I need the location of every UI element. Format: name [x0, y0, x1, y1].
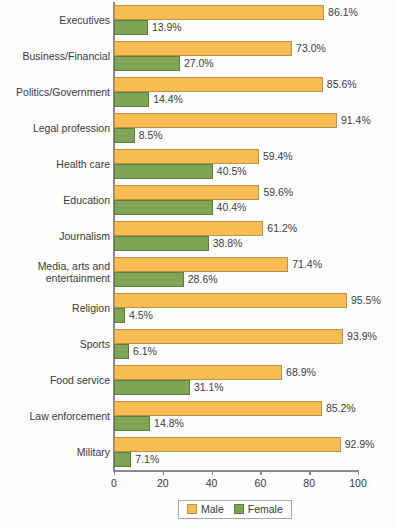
- bar-value-female: 6.1%: [129, 344, 157, 359]
- category-label: Politics/Government: [2, 86, 110, 99]
- bar-value-female: 4.5%: [125, 308, 153, 323]
- bar-row: 40.5%: [114, 164, 358, 179]
- bar-group: 93.9%6.1%: [114, 329, 358, 359]
- bar-male: [114, 149, 259, 164]
- bar-row: 59.4%: [114, 149, 358, 164]
- bar-female: [114, 128, 135, 143]
- bar-value-female: 8.5%: [135, 128, 163, 143]
- bar-value-male: 85.2%: [322, 401, 356, 416]
- legend-label: Female: [248, 503, 283, 515]
- bar-row: 13.9%: [114, 20, 358, 35]
- bar-male: [114, 293, 347, 308]
- bar-value-female: 13.9%: [148, 20, 182, 35]
- bar-group: 85.2%14.8%: [114, 401, 358, 431]
- bar-female: [114, 344, 129, 359]
- bar-group: 92.9%7.1%: [114, 437, 358, 467]
- bar-row: 14.8%: [114, 416, 358, 431]
- bar-value-female: 40.4%: [213, 200, 247, 215]
- bar-value-male: 92.9%: [341, 437, 375, 452]
- category-label: Sports: [2, 338, 110, 351]
- bar-group: 68.9%31.1%: [114, 365, 358, 395]
- bar-row: 92.9%: [114, 437, 358, 452]
- bar-chart: ExecutivesBusiness/FinancialPolitics/Gov…: [0, 0, 395, 530]
- bar-male: [114, 257, 288, 272]
- bar-value-male: 68.9%: [282, 365, 316, 380]
- x-axis-tick: [309, 470, 310, 475]
- bar-value-male: 73.0%: [292, 41, 326, 56]
- bar-row: 85.2%: [114, 401, 358, 416]
- bar-female: [114, 20, 148, 35]
- x-axis-tick: [163, 470, 164, 475]
- category-label: Education: [2, 194, 110, 207]
- category-label: Religion: [2, 302, 110, 315]
- bar-group: 73.0%27.0%: [114, 41, 358, 71]
- bar-value-female: 31.1%: [190, 380, 224, 395]
- bar-row: 85.6%: [114, 77, 358, 92]
- bar-male: [114, 77, 323, 92]
- bar-value-male: 93.9%: [343, 329, 377, 344]
- bar-row: 31.1%: [114, 380, 358, 395]
- category-label: Food service: [2, 374, 110, 387]
- bar-value-female: 40.5%: [213, 164, 247, 179]
- bar-row: 95.5%: [114, 293, 358, 308]
- bar-group: 86.1%13.9%: [114, 5, 358, 35]
- category-label: Executives: [2, 14, 110, 27]
- bar-female: [114, 200, 213, 215]
- chart-legend: MaleFemale: [178, 500, 292, 519]
- category-label: Legal profession: [2, 122, 110, 135]
- x-axis-tick-label: 40: [206, 477, 218, 489]
- bar-row: 73.0%: [114, 41, 358, 56]
- bar-female: [114, 380, 190, 395]
- bar-female: [114, 236, 209, 251]
- x-axis-tick-label: 60: [255, 477, 267, 489]
- bar-value-male: 91.4%: [337, 113, 371, 128]
- category-label: Military: [2, 446, 110, 459]
- bar-male: [114, 185, 259, 200]
- bar-group: 59.4%40.5%: [114, 149, 358, 179]
- x-axis-tick: [212, 470, 213, 475]
- legend-swatch-icon: [234, 504, 244, 514]
- bar-value-male: 71.4%: [288, 257, 322, 272]
- bar-value-male: 86.1%: [324, 5, 358, 20]
- x-axis-line: [113, 470, 358, 472]
- legend-item-male[interactable]: Male: [187, 503, 224, 515]
- bar-male: [114, 329, 343, 344]
- legend-label: Male: [201, 503, 224, 515]
- x-axis-tick: [358, 470, 359, 475]
- bar-row: 14.4%: [114, 92, 358, 107]
- bar-male: [114, 365, 282, 380]
- bar-row: 6.1%: [114, 344, 358, 359]
- category-label: Law enforcement: [2, 410, 110, 423]
- bar-value-female: 14.8%: [150, 416, 184, 431]
- x-axis-tick-label: 100: [349, 477, 367, 489]
- category-label-column: ExecutivesBusiness/FinancialPolitics/Gov…: [0, 2, 110, 470]
- x-axis-tick-label: 0: [111, 477, 117, 489]
- bar-row: 59.6%: [114, 185, 358, 200]
- bar-group: 61.2%38.8%: [114, 221, 358, 251]
- bar-value-male: 95.5%: [347, 293, 381, 308]
- bar-value-female: 27.0%: [180, 56, 214, 71]
- bar-male: [114, 41, 292, 56]
- bar-row: 91.4%: [114, 113, 358, 128]
- x-axis-tick: [114, 470, 115, 475]
- bar-row: 68.9%: [114, 365, 358, 380]
- bar-value-male: 61.2%: [263, 221, 297, 236]
- bar-male: [114, 5, 324, 20]
- bar-group: 59.6%40.4%: [114, 185, 358, 215]
- bar-female: [114, 452, 131, 467]
- legend-swatch-icon: [187, 504, 197, 514]
- bar-male: [114, 401, 322, 416]
- bar-value-male: 59.6%: [259, 185, 293, 200]
- bar-row: 71.4%: [114, 257, 358, 272]
- bar-value-female: 38.8%: [209, 236, 243, 251]
- bar-male: [114, 221, 263, 236]
- bar-row: 8.5%: [114, 128, 358, 143]
- bar-value-female: 7.1%: [131, 452, 159, 467]
- bar-value-male: 85.6%: [323, 77, 357, 92]
- legend-item-female[interactable]: Female: [234, 503, 283, 515]
- category-label: Health care: [2, 158, 110, 171]
- bar-female: [114, 92, 149, 107]
- bar-female: [114, 272, 184, 287]
- bar-female: [114, 164, 213, 179]
- bar-row: 28.6%: [114, 272, 358, 287]
